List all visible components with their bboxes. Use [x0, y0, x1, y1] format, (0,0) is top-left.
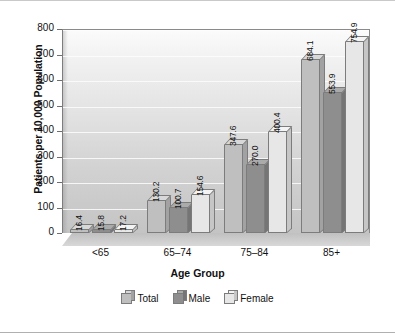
y-tick-label: 600 — [20, 73, 54, 84]
legend-swatch-icon — [121, 293, 132, 304]
bar-front-face — [345, 41, 364, 233]
legend-label: Total — [137, 293, 158, 304]
bar-male-2 — [246, 164, 265, 233]
x-tick-label: <65 — [66, 247, 136, 258]
x-tick-label: 75–84 — [220, 247, 290, 258]
legend-swatch-icon — [173, 293, 184, 304]
chart-figure: Patients per 10,000 Population 010020030… — [0, 0, 395, 333]
bar-front-face — [246, 164, 265, 233]
y-tick-label: 400 — [20, 124, 54, 135]
bar-side-face — [364, 36, 369, 233]
bar-front-face — [301, 59, 320, 233]
bar-value-label: 347.6 — [228, 126, 238, 146]
bar-value-label: 100.7 — [173, 189, 183, 209]
bar-side-face — [287, 126, 292, 233]
y-tick-label: 700 — [20, 48, 54, 59]
chart-legend: TotalMaleFemale — [0, 293, 395, 304]
y-tick-mark — [57, 208, 62, 209]
y-tick-mark — [57, 157, 62, 158]
bar-front-face — [323, 92, 342, 233]
y-tick-mark — [57, 182, 62, 183]
bar-female-1 — [191, 194, 210, 233]
legend-item-total[interactable]: Total — [121, 293, 158, 304]
bar-value-label: 754.9 — [349, 22, 359, 42]
y-tick-label: 300 — [20, 150, 54, 161]
y-tick-label: 100 — [20, 201, 54, 212]
x-axis-title: Age Group — [0, 267, 395, 279]
y-tick-label: 500 — [20, 99, 54, 110]
y-tick-mark — [57, 55, 62, 56]
legend-swatch-icon — [224, 293, 235, 304]
legend-label: Female — [240, 293, 273, 304]
y-tick-label: 200 — [20, 175, 54, 186]
y-tick-label: 0 — [20, 226, 54, 237]
bar-front-face — [224, 144, 243, 233]
y-tick-mark — [57, 29, 62, 30]
bar-female-2 — [268, 131, 287, 233]
bar-total-2 — [224, 144, 243, 233]
legend-item-male[interactable]: Male — [173, 293, 211, 304]
bar-value-label: 130.2 — [151, 182, 161, 202]
bar-front-face — [268, 131, 287, 233]
bar-side-face — [210, 189, 215, 233]
bar-front-face — [147, 200, 166, 233]
bar-front-face — [169, 207, 188, 233]
bar-value-label: 400.4 — [272, 113, 282, 133]
bar-value-label: 684.1 — [305, 40, 315, 60]
bar-female-3 — [345, 41, 364, 233]
bar-value-label: 17.2 — [118, 215, 128, 231]
bar-total-1 — [147, 200, 166, 233]
y-tick-mark — [57, 80, 62, 81]
x-tick-label: 65–74 — [143, 247, 213, 258]
bar-value-label: 154.6 — [195, 175, 205, 195]
y-tick-mark — [57, 106, 62, 107]
x-tick-label: 85+ — [297, 247, 367, 258]
y-tick-label: 800 — [20, 22, 54, 33]
plot-floor — [62, 233, 370, 246]
bar-value-label: 16.4 — [74, 215, 84, 231]
bar-total-3 — [301, 59, 320, 233]
y-tick-mark — [57, 233, 62, 234]
bar-value-label: 15.8 — [96, 215, 106, 231]
legend-label: Male — [189, 293, 211, 304]
bar-front-face — [191, 194, 210, 233]
bar-male-1 — [169, 207, 188, 233]
legend-item-female[interactable]: Female — [224, 293, 273, 304]
gridline — [63, 30, 369, 31]
bar-value-label: 553.9 — [327, 73, 337, 93]
bar-value-label: 270.0 — [250, 146, 260, 166]
bar-male-3 — [323, 92, 342, 233]
y-tick-mark — [57, 131, 62, 132]
